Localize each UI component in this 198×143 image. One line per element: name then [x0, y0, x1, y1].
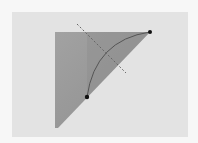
- vertex-point-top-right: [148, 30, 152, 34]
- point-on-hypotenuse: [85, 95, 89, 99]
- geometry-diagram: [0, 0, 198, 143]
